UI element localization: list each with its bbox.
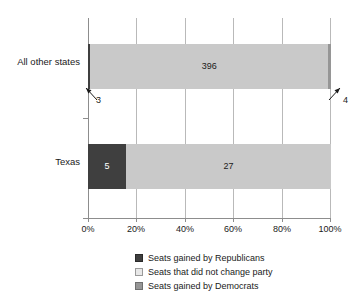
category-label-texas: Texas	[8, 156, 80, 167]
legend-swatch-no-change-icon	[135, 268, 143, 276]
x-axis-tick-60	[233, 218, 234, 222]
category-label-all-other-states: All other states	[8, 56, 80, 67]
bar-texas: 5 27	[88, 144, 331, 189]
legend-item-no-change[interactable]: Seats that did not change party	[135, 266, 273, 278]
bar-segment-republicans-texas: 5	[88, 144, 126, 189]
annotation-label-left: 3	[96, 95, 101, 105]
legend-swatch-republicans-icon	[135, 254, 143, 262]
legend-item-republicans[interactable]: Seats gained by Republicans	[135, 252, 273, 264]
y-axis-tick-top	[83, 118, 88, 119]
x-axis-label-0: 0%	[68, 224, 108, 234]
stacked-bar-chart: All other states 396 3 4 Texas 5 27 0% 2…	[0, 0, 354, 303]
legend-swatch-democrats-icon	[135, 282, 143, 290]
x-axis-tick-20	[136, 218, 137, 222]
legend-item-democrats[interactable]: Seats gained by Democrats	[135, 280, 273, 292]
legend-label-democrats: Seats gained by Democrats	[148, 282, 259, 291]
x-axis-tick-40	[185, 218, 186, 222]
annotation-arrow-right	[326, 87, 344, 103]
x-axis-tick-100	[330, 218, 331, 222]
legend-label-no-change: Seats that did not change party	[148, 268, 273, 277]
x-axis-line	[88, 218, 331, 219]
bar-segment-no-change-all-other-states: 396	[90, 44, 329, 89]
x-axis-tick-80	[282, 218, 283, 222]
bar-segment-democrats-all-other-states	[328, 44, 331, 89]
x-axis-tick-0	[88, 218, 89, 222]
x-axis-label-60: 60%	[213, 224, 253, 234]
chart-legend: Seats gained by Republicans Seats that d…	[135, 252, 273, 292]
bar-segment-no-change-texas: 27	[126, 144, 331, 189]
legend-label-republicans: Seats gained by Republicans	[148, 254, 265, 263]
x-axis-label-80: 80%	[262, 224, 302, 234]
annotation-label-right: 4	[343, 95, 348, 105]
x-axis-label-100: 100%	[310, 224, 350, 234]
bar-all-other-states: 396	[88, 44, 331, 89]
x-axis-label-20: 20%	[116, 224, 156, 234]
x-axis-label-40: 40%	[165, 224, 205, 234]
